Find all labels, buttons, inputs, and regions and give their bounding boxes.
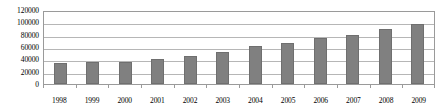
x-axis-label-slot: 2006 [304,89,337,107]
x-axis-tick-label: 1998 [52,96,67,105]
bar-slot [369,12,402,84]
y-axis-tick-label: 40000 [21,56,39,64]
x-axis-label-slot: 2005 [272,89,305,107]
y-axis-tick-label: 20000 [21,69,39,77]
x-axis-tick-label: 2009 [411,96,426,105]
x-axis-tick-mark [76,85,77,88]
x-axis-label-slot: 2002 [174,89,207,107]
x-axis-tick-mark [141,85,142,88]
x-axis-tick-label: 2001 [150,96,165,105]
bar[interactable] [346,35,359,84]
x-axis-tick-label: 2007 [346,96,361,105]
x-axis-tick-label: 2005 [281,96,296,105]
x-axis-tick-label: 2004 [248,96,263,105]
bar[interactable] [54,63,67,84]
bar[interactable] [249,46,262,84]
x-axis-tick-mark [206,85,207,88]
x-axis-tick-label: 2000 [117,96,132,105]
bar[interactable] [119,62,132,84]
bar-slot [402,12,435,84]
bar-slot [77,12,110,84]
x-axis-label-slot: 2004 [239,89,272,107]
x-axis-tick-label: 1999 [85,96,100,105]
x-axis-label-slot: 1998 [43,89,76,107]
bar-slot [207,12,240,84]
bar-slot [272,12,305,84]
bar[interactable] [86,62,99,84]
bar-slot [239,12,272,84]
bar[interactable] [314,38,327,84]
x-axis-labels: 1998199920002001200220032004200520062007… [43,89,435,107]
y-axis-tick-label: 60000 [21,44,39,52]
y-axis-tick-label: 80000 [21,32,39,40]
x-axis-label-slot: 2008 [370,89,403,107]
x-axis: 1998199920002001200220032004200520062007… [43,85,435,108]
bar-slot [337,12,370,84]
bar-series [44,12,434,84]
x-axis-tick-mark [174,85,175,88]
x-axis-tick-mark [370,85,371,88]
bar[interactable] [379,29,392,84]
x-axis-label-slot: 2009 [402,89,435,107]
x-axis-tick-mark [402,85,403,88]
x-axis-tick-label: 2008 [379,96,394,105]
bar[interactable] [411,24,424,84]
bar-slot [109,12,142,84]
x-axis-tick-label: 2006 [313,96,328,105]
bar-slot [44,12,77,84]
x-axis-label-slot: 2000 [108,89,141,107]
plot-area [43,11,435,85]
x-axis-tick-label: 2002 [183,96,198,105]
bar[interactable] [281,43,294,84]
x-axis-tick-label: 2003 [215,96,230,105]
y-axis-tick-label: 0 [35,81,39,89]
x-axis-label-slot: 2003 [206,89,239,107]
y-axis: 020000400006000080000100000120000 [0,0,42,108]
x-axis-tick-mark [337,85,338,88]
bar-chart: 020000400006000080000100000120000 199819… [0,0,440,108]
x-axis-label-slot: 2001 [141,89,174,107]
bar-slot [174,12,207,84]
x-axis-tick-mark [434,85,435,88]
y-axis-tick-label: 120000 [17,7,39,15]
bar-slot [304,12,337,84]
x-axis-label-slot: 2007 [337,89,370,107]
y-axis-tick-label: 100000 [17,19,39,27]
bar[interactable] [184,56,197,84]
x-axis-tick-mark [108,85,109,88]
bar[interactable] [216,52,229,84]
x-axis-tick-mark [272,85,273,88]
x-axis-tick-mark [43,85,44,88]
bar[interactable] [151,59,164,84]
bar-slot [142,12,175,84]
x-axis-tick-mark [239,85,240,88]
x-axis-tick-mark [304,85,305,88]
x-axis-label-slot: 1999 [76,89,109,107]
